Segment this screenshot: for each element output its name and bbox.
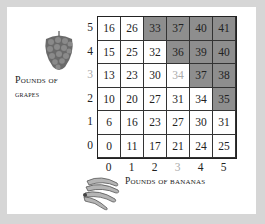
grid-cell: 38 [213, 64, 236, 88]
grid-cell: 26 [121, 17, 144, 41]
grid-cell: 36 [167, 41, 190, 65]
y-axis-title-line2: grapes [15, 89, 39, 99]
grid-cell: 25 [121, 41, 144, 65]
y-tick-5: 5 [85, 21, 95, 33]
grid-cell: 16 [121, 111, 144, 135]
x-tick-3: 3 [166, 161, 189, 173]
x-tick-5: 5 [212, 161, 235, 173]
grid-cell: 37 [167, 17, 190, 41]
y-tick-4: 4 [85, 45, 95, 57]
grid-cell: 31 [213, 111, 236, 135]
grid-cell: 35 [213, 88, 236, 112]
x-axis-title: Pounds of bananas [125, 176, 205, 186]
grid-cell: 27 [167, 111, 190, 135]
grid-cell: 30 [144, 64, 167, 88]
grid-cell: 24 [190, 135, 213, 159]
grid-cell: 31 [167, 88, 190, 112]
grid-cell: 40 [213, 41, 236, 65]
grapes-icon [41, 29, 77, 73]
grid-cell: 32 [144, 41, 167, 65]
value-grid: 16 26 33 37 40 41 15 25 32 36 39 40 13 2… [97, 16, 237, 159]
grid-cell: 16 [98, 17, 121, 41]
grid-cell: 20 [121, 88, 144, 112]
grid-cell: 34 [190, 88, 213, 112]
x-tick-0: 0 [97, 161, 120, 173]
grid-cell: 11 [121, 135, 144, 159]
y-tick-3: 3 [85, 68, 95, 80]
x-tick-4: 4 [189, 161, 212, 173]
figure-card: Pounds of grapes 5 4 3 2 1 0 16 26 33 37… [7, 7, 256, 214]
grid-cell: 41 [213, 17, 236, 41]
grid-cell: 33 [144, 17, 167, 41]
grid-cell: 40 [190, 17, 213, 41]
y-tick-0: 0 [85, 139, 95, 151]
grid-cell: 6 [98, 111, 121, 135]
y-tick-1: 1 [85, 115, 95, 127]
grid-cell: 0 [98, 135, 121, 159]
grid-cell: 13 [98, 64, 121, 88]
grid-cell-highlighted: 34 [167, 64, 190, 88]
grid-cell: 23 [144, 111, 167, 135]
x-tick-1: 1 [120, 161, 143, 173]
grid-cell: 30 [190, 111, 213, 135]
grid-cell: 17 [144, 135, 167, 159]
grid-cell: 23 [121, 64, 144, 88]
y-tick-2: 2 [85, 92, 95, 104]
y-axis-title-line1: Pounds of [15, 74, 58, 85]
grid-cell: 25 [213, 135, 236, 159]
grid-cell: 37 [190, 64, 213, 88]
grid-cell: 21 [167, 135, 190, 159]
grid-cell: 10 [98, 88, 121, 112]
grid-cell: 27 [144, 88, 167, 112]
bananas-icon [83, 175, 123, 211]
grid-cell: 39 [190, 41, 213, 65]
x-tick-2: 2 [143, 161, 166, 173]
grid-cell: 15 [98, 41, 121, 65]
